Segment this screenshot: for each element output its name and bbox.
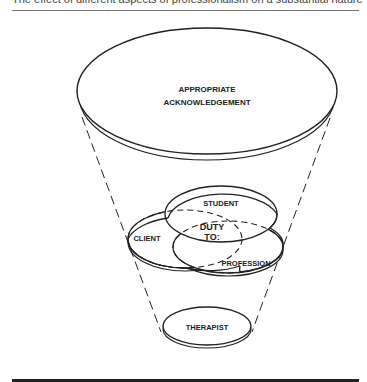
- student-label: STUDENT: [203, 199, 239, 208]
- therapist-label: THERAPIST: [186, 323, 229, 332]
- duty-label-2: TO:: [204, 232, 219, 242]
- duty-label-1: DUTY: [200, 222, 225, 232]
- profession-label: PROFESSION: [221, 259, 270, 268]
- top-disk: [77, 28, 337, 160]
- top-label-1: APPROPRIATE: [178, 85, 236, 94]
- top-label-2: ACKNOWLEDGEMENT: [163, 98, 250, 107]
- client-label: CLIENT: [133, 234, 161, 243]
